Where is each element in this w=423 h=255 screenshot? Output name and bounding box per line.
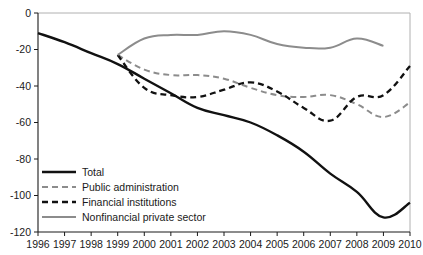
x-tick-label: 2002 [186, 238, 210, 250]
x-tick-label: 2001 [159, 238, 183, 250]
x-tick-label: 2007 [319, 238, 343, 250]
chart-canvas: 0-20-40-60-80-100-120 199619971998199920… [0, 0, 423, 255]
legend-label: Public administration [82, 181, 179, 193]
y-tick-label: -20 [16, 43, 31, 55]
x-tick-label: 2009 [372, 238, 396, 250]
y-tick-label: -40 [16, 80, 31, 92]
x-tick-label: 2010 [398, 238, 422, 250]
x-tick-label: 2004 [239, 238, 263, 250]
y-tick-label: -60 [16, 116, 31, 128]
x-tick-label: 2005 [265, 238, 289, 250]
y-tick-label: -80 [16, 153, 31, 165]
y-tick-group: 0-20-40-60-80-100-120 [10, 7, 38, 238]
y-tick-label: -120 [10, 226, 31, 238]
x-tick-label: 2000 [133, 238, 157, 250]
chart-legend: TotalPublic administrationFinancial inst… [42, 166, 206, 223]
legend-label: Financial institutions [82, 196, 177, 208]
x-tick-label: 1998 [79, 238, 103, 250]
legend-label: Total [82, 166, 104, 178]
x-tick-label: 2006 [292, 238, 316, 250]
x-tick-label: 2008 [345, 238, 369, 250]
y-tick-label: -100 [10, 189, 31, 201]
x-tick-label: 1996 [26, 238, 50, 250]
line-chart: 0-20-40-60-80-100-120 199619971998199920… [0, 0, 423, 255]
y-tick-label: 0 [25, 7, 31, 19]
series-line-nonfinancial-private-sector [118, 31, 384, 55]
series-line-public-administration [118, 55, 410, 117]
x-tick-label: 1999 [106, 238, 130, 250]
legend-label: Nonfinancial private sector [82, 211, 206, 223]
x-tick-label: 2003 [212, 238, 236, 250]
x-tick-label: 1997 [53, 238, 77, 250]
x-tick-group: 1996199719981999200020012002200320042005… [26, 232, 422, 250]
